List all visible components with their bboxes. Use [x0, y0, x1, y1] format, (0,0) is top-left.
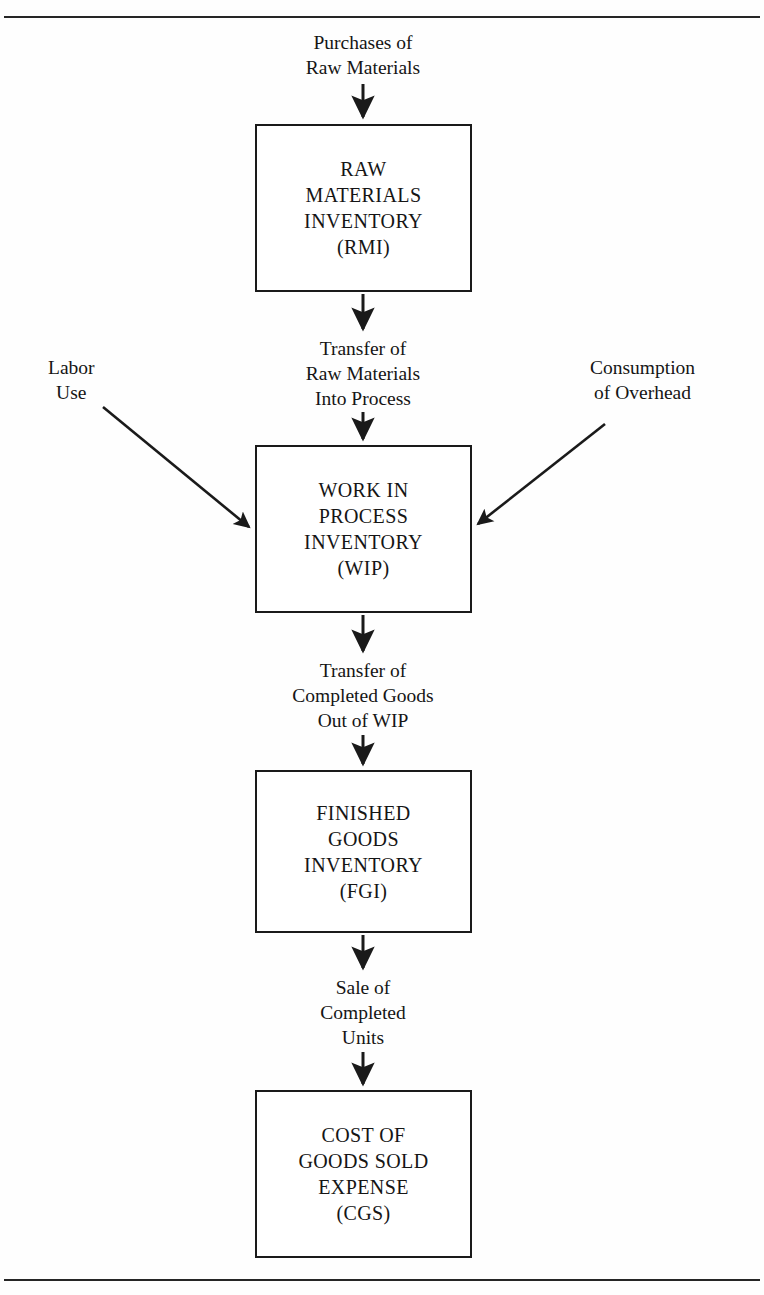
flowchart-canvas: Purchases of Raw Materials RAW MATERIALS… — [0, 0, 764, 1295]
node-line: MATERIALS — [306, 182, 422, 208]
node-line: COST OF — [321, 1122, 405, 1148]
edge-label-line: Purchases of — [232, 30, 494, 55]
node-line: INVENTORY — [304, 208, 423, 234]
side-label-line: Consumption — [590, 355, 695, 380]
side-label-line: Labor — [48, 355, 95, 380]
side-label-line: Use — [48, 380, 95, 405]
node-line: (WIP) — [338, 555, 390, 581]
bottom-divider-rule — [4, 1279, 760, 1281]
node-line: PROCESS — [319, 503, 409, 529]
node-line: EXPENSE — [318, 1174, 409, 1200]
node-raw-materials-inventory[interactable]: RAW MATERIALS INVENTORY (RMI) — [255, 124, 472, 292]
edge-label-purchases: Purchases of Raw Materials — [232, 30, 494, 80]
node-line: FINISHED — [316, 800, 410, 826]
top-divider-rule — [4, 16, 760, 18]
node-line: GOODS SOLD — [298, 1148, 428, 1174]
edge-label-line: Units — [242, 1025, 484, 1050]
node-finished-goods-inventory[interactable]: FINISHED GOODS INVENTORY (FGI) — [255, 770, 472, 933]
side-label-labor-use: Labor Use — [48, 355, 95, 405]
arrow-consumption-overhead-to-wip — [478, 424, 605, 524]
node-line: INVENTORY — [304, 529, 423, 555]
node-line: WORK IN — [318, 477, 408, 503]
edge-label-line: Transfer of — [232, 336, 494, 361]
edge-label-transfer-completed-goods: Transfer of Completed Goods Out of WIP — [212, 658, 514, 733]
edge-label-transfer-raw-materials: Transfer of Raw Materials Into Process — [232, 336, 494, 411]
node-line: INVENTORY — [304, 852, 423, 878]
node-line: RAW — [340, 156, 386, 182]
edge-label-line: Raw Materials — [232, 55, 494, 80]
edge-label-line: Sale of — [242, 975, 484, 1000]
node-line: (FGI) — [340, 878, 388, 904]
arrow-labor-use-to-wip — [103, 407, 249, 527]
side-label-consumption-of-overhead: Consumption of Overhead — [590, 355, 695, 405]
node-line: (RMI) — [337, 234, 390, 260]
edge-label-line: Completed Goods — [212, 683, 514, 708]
node-line: (CGS) — [336, 1200, 390, 1226]
edge-label-line: Transfer of — [212, 658, 514, 683]
edge-label-line: Raw Materials — [232, 361, 494, 386]
node-line: GOODS — [328, 826, 399, 852]
edge-label-sale-of-completed-units: Sale of Completed Units — [242, 975, 484, 1050]
edge-label-line: Completed — [242, 1000, 484, 1025]
edge-label-line: Out of WIP — [212, 708, 514, 733]
edge-label-line: Into Process — [232, 386, 494, 411]
side-label-line: of Overhead — [590, 380, 695, 405]
node-cost-of-goods-sold-expense[interactable]: COST OF GOODS SOLD EXPENSE (CGS) — [255, 1090, 472, 1258]
node-work-in-process-inventory[interactable]: WORK IN PROCESS INVENTORY (WIP) — [255, 445, 472, 613]
